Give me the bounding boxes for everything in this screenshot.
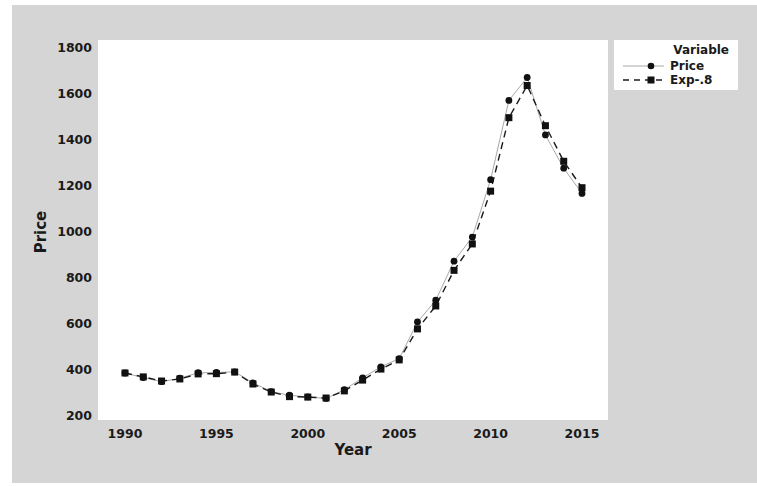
exp-point-marker [195, 370, 202, 377]
legend: Variable Price Exp-.8 [614, 40, 738, 90]
exp-point-marker [377, 366, 384, 373]
exp-point-marker [249, 381, 256, 388]
exp-point-marker [231, 369, 238, 376]
y-tick-label: 800 [66, 270, 92, 285]
x-tick-label: 2010 [473, 426, 508, 441]
x-tick-label: 1990 [108, 426, 143, 441]
legend-title: Variable [673, 43, 729, 57]
y-tick-label: 600 [66, 316, 92, 331]
x-axis-ticks: 199019952000200520102015 [108, 426, 600, 441]
plot-area [98, 40, 608, 420]
square-marker-icon [648, 77, 655, 84]
y-tick-label: 1600 [57, 86, 92, 101]
exp-point-marker [140, 373, 147, 380]
exp-point-marker [579, 184, 586, 191]
exp-point-marker [213, 370, 220, 377]
exp-point-marker [286, 393, 293, 400]
y-axis-ticks: 20040060080010001200140016001800 [57, 40, 92, 422]
price-point-marker [414, 319, 421, 326]
exp-point-marker [323, 395, 330, 402]
exp-point-marker [122, 369, 129, 376]
exp-point-marker [560, 158, 567, 165]
line-chart: 20040060080010001200140016001800 1990199… [0, 0, 757, 486]
price-point-marker [542, 131, 549, 138]
y-axis-title: Price [32, 211, 50, 254]
y-tick-label: 1200 [57, 178, 92, 193]
legend-label-exp: Exp-.8 [670, 73, 712, 87]
y-tick-label: 400 [66, 362, 92, 377]
exp-point-marker [414, 325, 421, 332]
x-tick-label: 2000 [290, 426, 325, 441]
exp-point-marker [524, 82, 531, 89]
exp-point-marker [341, 387, 348, 394]
exp-point-marker [451, 267, 458, 274]
exp-point-marker [542, 122, 549, 129]
price-point-marker [505, 97, 512, 104]
y-tick-label: 1000 [57, 224, 92, 239]
price-point-marker [469, 234, 476, 241]
exp-point-marker [505, 114, 512, 121]
price-point-marker [560, 165, 567, 172]
exp-point-marker [469, 240, 476, 247]
exp-point-marker [487, 188, 494, 195]
price-point-marker [487, 176, 494, 183]
x-axis-title: Year [333, 441, 372, 459]
exp-point-marker [432, 302, 439, 309]
y-tick-label: 200 [66, 408, 92, 423]
price-point-marker [451, 258, 458, 265]
exp-point-marker [396, 356, 403, 363]
exp-point-marker [158, 378, 165, 385]
exp-point-marker [176, 375, 183, 382]
exp-point-marker [359, 377, 366, 384]
legend-label-price: Price [670, 59, 704, 73]
price-point-marker [524, 74, 531, 81]
x-tick-label: 2015 [565, 426, 600, 441]
exp-point-marker [268, 389, 275, 396]
circle-marker-icon [648, 63, 655, 70]
y-tick-label: 1400 [57, 132, 92, 147]
y-tick-label: 1800 [57, 40, 92, 55]
x-tick-label: 2005 [382, 426, 417, 441]
x-tick-label: 1995 [199, 426, 234, 441]
exp-point-marker [304, 394, 311, 401]
